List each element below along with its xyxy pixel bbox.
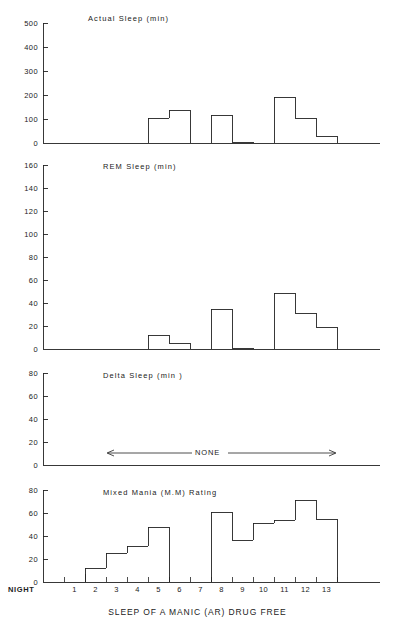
figure-sleep-of-a-manic: Actual Sleep (min) 500 400 300 200 100 0… bbox=[0, 0, 395, 629]
night-tick-3: 3 bbox=[106, 585, 127, 594]
night-tick-4: 4 bbox=[127, 585, 148, 594]
night-tick-9: 9 bbox=[232, 585, 253, 594]
night-tick-12: 12 bbox=[295, 585, 316, 594]
night-tick-7: 7 bbox=[190, 585, 211, 594]
figure-caption: SLEEP OF A MANIC (AR) DRUG FREE bbox=[0, 607, 395, 617]
night-axis-label: NIGHT bbox=[8, 585, 34, 594]
night-tick-1: 1 bbox=[64, 585, 85, 594]
mixed-mania-plot bbox=[0, 0, 395, 629]
night-tick-11: 11 bbox=[274, 585, 295, 594]
night-tick-10: 10 bbox=[253, 585, 274, 594]
night-tick-6: 6 bbox=[169, 585, 190, 594]
night-tick-8: 8 bbox=[211, 585, 232, 594]
night-tick-13: 13 bbox=[316, 585, 337, 594]
night-tick-5: 5 bbox=[148, 585, 169, 594]
night-tick-2: 2 bbox=[85, 585, 106, 594]
